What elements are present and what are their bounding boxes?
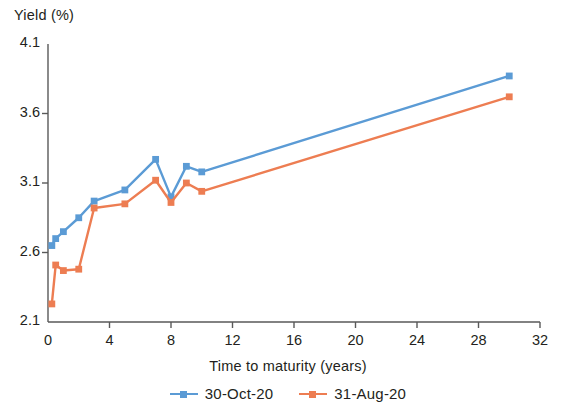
legend-item[interactable]: 30-Oct-20 — [170, 385, 274, 402]
data-point-marker — [506, 93, 513, 100]
data-point-marker — [75, 266, 82, 273]
data-point-marker — [75, 214, 82, 221]
x-axis-ticks — [110, 322, 541, 328]
x-tick-label: 20 — [336, 332, 376, 348]
data-point-marker — [91, 205, 98, 212]
legend-label: 31-Aug-20 — [334, 385, 406, 402]
x-tick-label: 28 — [459, 332, 499, 348]
data-point-marker — [168, 199, 175, 206]
y-tick-label: 2.1 — [0, 312, 40, 328]
data-series-group — [48, 73, 512, 308]
x-tick-label: 32 — [520, 332, 560, 348]
yield-curve-chart: Yield (%) 2.12.63.13.64.1 04812162024283… — [0, 0, 576, 413]
data-point-marker — [121, 187, 128, 194]
data-series — [48, 73, 512, 249]
data-point-marker — [152, 156, 159, 163]
data-point-marker — [506, 73, 513, 80]
data-point-marker — [60, 228, 67, 235]
data-point-marker — [48, 242, 55, 249]
data-point-marker — [52, 235, 59, 242]
y-tick-label: 3.1 — [0, 173, 40, 189]
y-tick-label: 3.6 — [0, 104, 40, 120]
series-line — [52, 97, 509, 304]
data-point-marker — [198, 188, 205, 195]
x-tick-label: 16 — [274, 332, 314, 348]
legend-label: 30-Oct-20 — [205, 385, 274, 402]
data-point-marker — [60, 267, 67, 274]
plot-area — [0, 0, 576, 413]
legend-item[interactable]: 31-Aug-20 — [299, 385, 406, 402]
data-point-marker — [121, 200, 128, 207]
x-tick-label: 0 — [28, 332, 68, 348]
data-point-marker — [48, 301, 55, 308]
series-line — [52, 76, 509, 246]
data-point-marker — [183, 180, 190, 187]
x-tick-label: 8 — [151, 332, 191, 348]
x-tick-label: 24 — [397, 332, 437, 348]
data-series — [48, 93, 512, 307]
x-tick-label: 4 — [90, 332, 130, 348]
data-point-marker — [91, 198, 98, 205]
data-point-marker — [183, 163, 190, 170]
x-axis-title: Time to maturity (years) — [0, 358, 576, 374]
legend-swatch-icon — [170, 388, 198, 400]
y-tick-label: 2.6 — [0, 243, 40, 259]
y-axis-ticks — [42, 114, 48, 253]
data-point-marker — [152, 177, 159, 184]
data-point-marker — [52, 262, 59, 269]
axes — [48, 44, 540, 322]
legend-swatch-icon — [299, 388, 327, 400]
data-point-marker — [198, 168, 205, 175]
y-tick-label: 4.1 — [0, 34, 40, 50]
chart-legend: 30-Oct-2031-Aug-20 — [0, 385, 576, 402]
x-tick-label: 12 — [213, 332, 253, 348]
